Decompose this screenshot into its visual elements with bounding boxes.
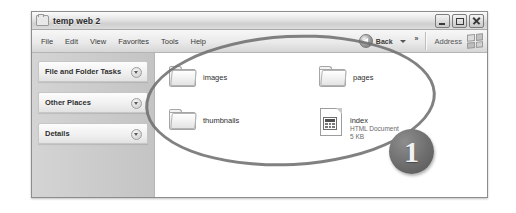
- back-button[interactable]: Back: [355, 34, 410, 48]
- window-controls: [435, 14, 484, 28]
- sidebar-panel-details[interactable]: Details: [38, 123, 148, 144]
- folder-icon: [169, 65, 196, 87]
- file-grid: images thumbnails: [169, 65, 487, 162]
- folder-icon: [169, 108, 196, 130]
- address-bar-label: Address: [429, 37, 467, 46]
- back-arrow-icon: [359, 34, 373, 48]
- toolbar-right: Back » Address: [355, 30, 487, 52]
- list-item[interactable]: pages: [319, 65, 469, 87]
- callout-number: 1: [404, 137, 419, 167]
- menu-item-file[interactable]: File: [41, 37, 53, 46]
- minimize-button[interactable]: [435, 14, 450, 28]
- sidebar-panel-other-places[interactable]: Other Places: [38, 92, 148, 113]
- window-title: temp web 2: [53, 16, 100, 26]
- back-button-label: Back: [376, 38, 393, 45]
- file-name: index: [350, 116, 399, 125]
- list-item[interactable]: thumbnails: [169, 108, 319, 130]
- html-document-icon: [319, 108, 343, 136]
- chevron-down-icon[interactable]: [131, 129, 142, 140]
- chevron-down-icon[interactable]: [131, 67, 142, 78]
- list-item[interactable]: images: [169, 65, 319, 87]
- explorer-sidebar: File and Folder Tasks Other Places Detai…: [32, 53, 155, 197]
- close-button[interactable]: [469, 14, 484, 28]
- menu-item-edit[interactable]: Edit: [65, 37, 78, 46]
- windows-flag-icon: [467, 33, 483, 49]
- caret-down-icon[interactable]: [400, 40, 406, 43]
- menu-item-tools[interactable]: Tools: [161, 37, 179, 46]
- toolbar-separator: [425, 32, 427, 50]
- callout-badge-1: 1: [389, 129, 434, 174]
- folder-icon: [319, 65, 346, 87]
- toolbar-overflow-button[interactable]: »: [415, 35, 419, 42]
- screenshot-root: temp web 2 File Edit View Favorites Tool…: [0, 0, 516, 213]
- file-name: images: [203, 73, 227, 82]
- folder-icon: [36, 15, 49, 26]
- menu-bar: File Edit View Favorites Tools Help: [32, 37, 206, 46]
- sidebar-panel-file-and-folder-tasks[interactable]: File and Folder Tasks: [38, 61, 148, 82]
- file-type: HTML Document: [350, 125, 399, 133]
- panel-title: File and Folder Tasks: [39, 67, 121, 76]
- window-body: File and Folder Tasks Other Places Detai…: [32, 53, 487, 197]
- panel-title: Details: [39, 129, 70, 138]
- file-name: pages: [353, 73, 373, 82]
- maximize-button[interactable]: [452, 14, 467, 28]
- file-column-left: images thumbnails: [169, 65, 319, 162]
- chevron-down-icon[interactable]: [131, 98, 142, 109]
- menu-toolbar-strip: File Edit View Favorites Tools Help Back…: [32, 30, 487, 53]
- menu-item-view[interactable]: View: [90, 37, 106, 46]
- file-list-pane: images thumbnails: [155, 53, 487, 197]
- panel-title: Other Places: [39, 98, 91, 107]
- menu-item-help[interactable]: Help: [191, 37, 206, 46]
- title-bar[interactable]: temp web 2: [32, 12, 487, 30]
- menu-item-favorites[interactable]: Favorites: [118, 37, 149, 46]
- file-name: thumbnails: [203, 116, 239, 125]
